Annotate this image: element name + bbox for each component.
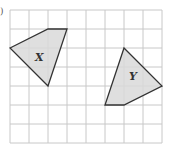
- grid-figure: [0, 0, 170, 154]
- shape-x-label: X: [35, 51, 44, 64]
- shape-y-label: Y: [129, 70, 137, 83]
